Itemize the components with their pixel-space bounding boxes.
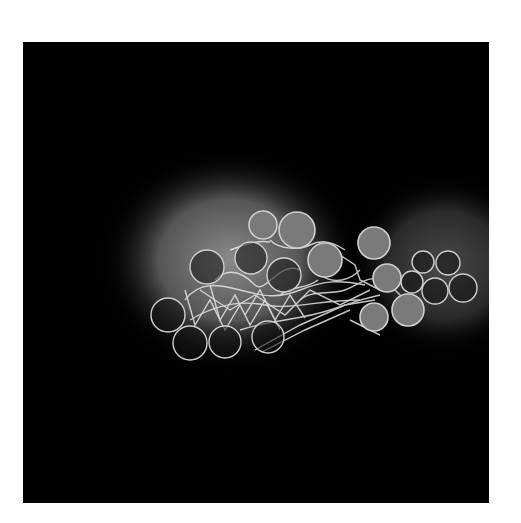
empty-cell bbox=[422, 278, 448, 304]
filled-cell bbox=[249, 211, 277, 239]
empty-cell bbox=[252, 321, 284, 353]
empty-cell bbox=[235, 242, 267, 274]
filled-cell bbox=[360, 303, 388, 331]
filled-cell bbox=[392, 294, 424, 326]
empty-cell bbox=[190, 250, 224, 284]
empty-cell bbox=[173, 326, 207, 360]
micrograph-scene bbox=[23, 42, 489, 503]
empty-cell bbox=[412, 251, 434, 273]
filled-cell bbox=[279, 212, 315, 248]
filled-cell bbox=[308, 243, 342, 277]
filled-cell bbox=[358, 227, 390, 259]
filled-cell bbox=[373, 264, 401, 292]
empty-cell bbox=[151, 298, 185, 332]
empty-cell bbox=[209, 326, 241, 358]
empty-cell bbox=[401, 271, 423, 293]
micrograph-image bbox=[23, 42, 489, 503]
empty-cell bbox=[267, 258, 301, 292]
empty-cell bbox=[449, 274, 477, 302]
empty-cell bbox=[436, 251, 460, 275]
